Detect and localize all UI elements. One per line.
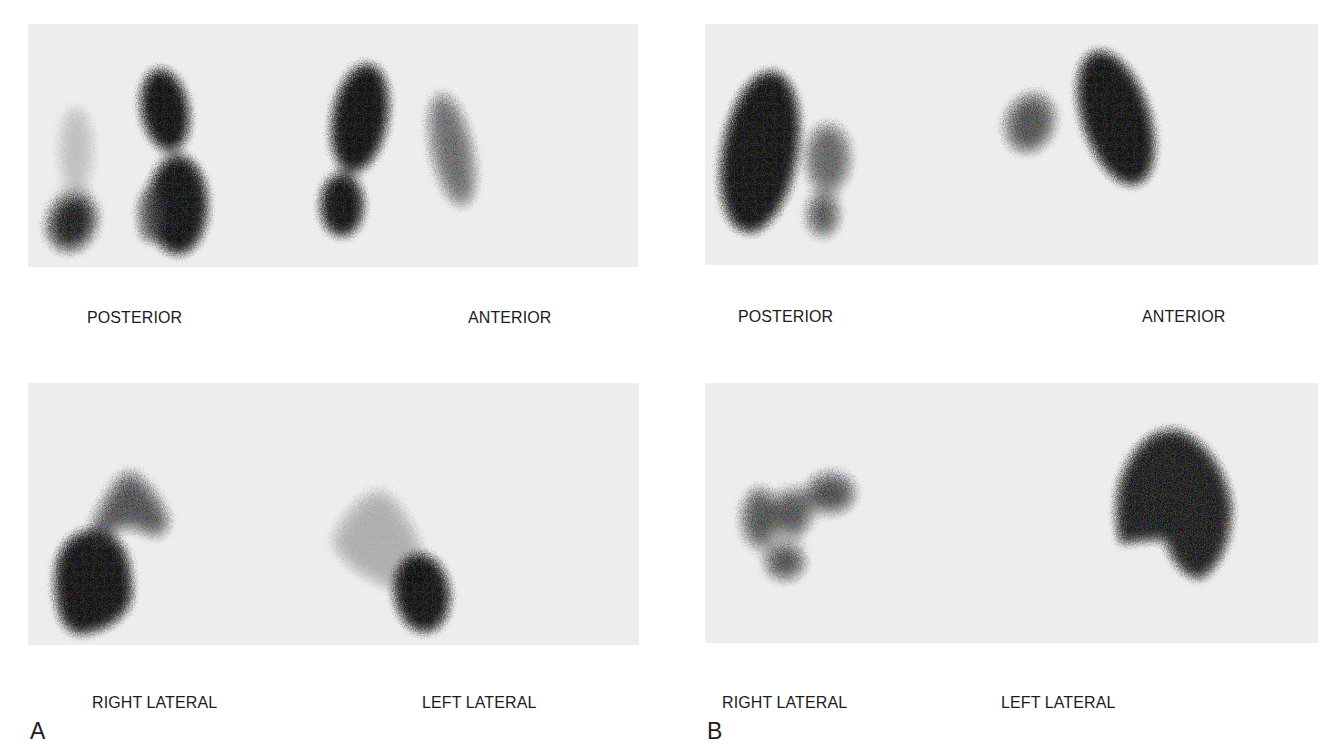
a-right-lateral-label: RIGHT LATERAL: [92, 694, 217, 712]
panel-b-bottom-scan: [705, 383, 1318, 643]
figure-letter-b: B: [707, 720, 722, 743]
panel-a-bottom-scan: [28, 383, 639, 645]
a-anterior-label: ANTERIOR: [468, 309, 551, 327]
a-posterior-label: POSTERIOR: [87, 309, 182, 327]
panel-b-top-scan: [705, 24, 1318, 265]
panel-a-top-scan: [28, 24, 638, 267]
figure-letter-a: A: [30, 720, 45, 743]
b-anterior-label: ANTERIOR: [1142, 308, 1225, 326]
b-right-lateral-label: RIGHT LATERAL: [722, 694, 847, 712]
b-left-lateral-label: LEFT LATERAL: [1001, 694, 1115, 712]
b-posterior-label: POSTERIOR: [738, 308, 833, 326]
a-left-lateral-label: LEFT LATERAL: [422, 694, 536, 712]
